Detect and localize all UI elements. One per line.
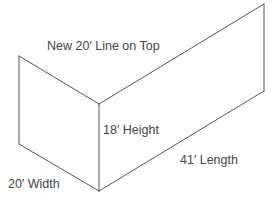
right-panel-top-edge [99, 4, 264, 104]
height-label: 18′ Height [103, 124, 159, 137]
right-panel-bottom-edge [99, 91, 264, 191]
wall-panels-drawing [0, 0, 275, 207]
left-panel-top-edge [19, 56, 99, 104]
width-label: 20′ Width [8, 178, 60, 191]
top-line-label: New 20′ Line on Top [47, 40, 160, 53]
length-label: 41′ Length [180, 154, 238, 167]
